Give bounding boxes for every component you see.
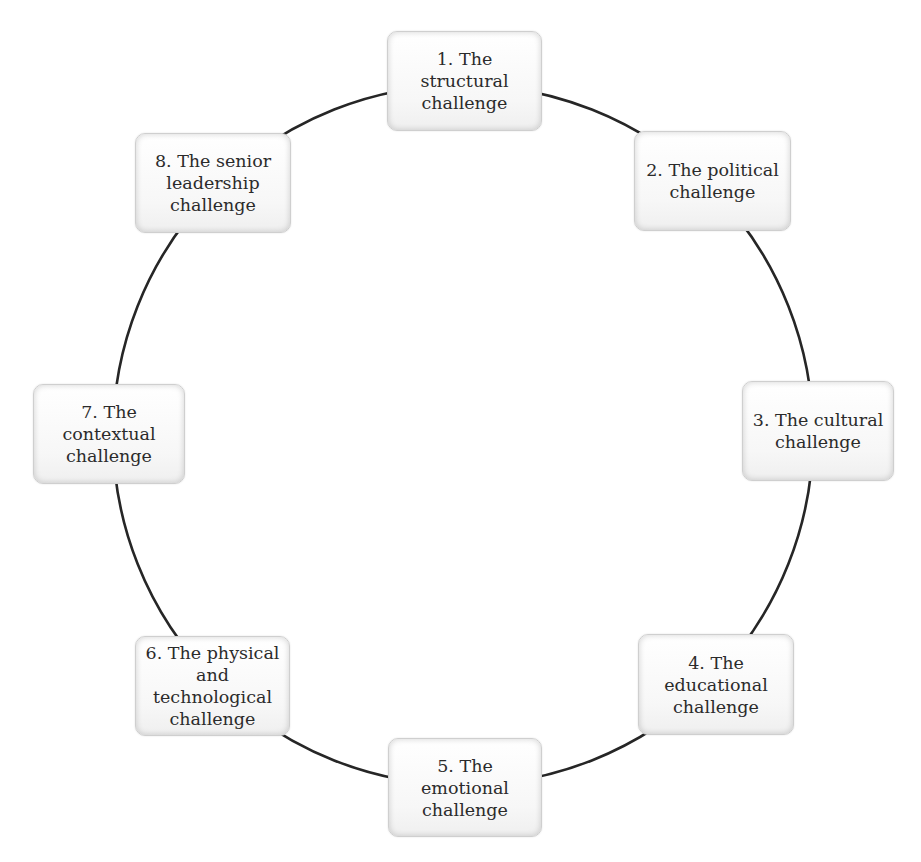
node-label: 4. The educational challenge [664, 652, 768, 718]
node-cultural-challenge: 3. The cultural challenge [742, 381, 894, 481]
node-structural-challenge: 1. The structural challenge [387, 31, 542, 131]
node-label: 5. The emotional challenge [395, 755, 535, 821]
node-label: 8. The senior leadership challenge [155, 150, 271, 216]
node-physical-technological-challenge: 6. The physical and technological challe… [135, 636, 290, 736]
node-political-challenge: 2. The political challenge [634, 131, 791, 231]
node-label: 7. The contextual challenge [40, 401, 178, 467]
node-senior-leadership-challenge: 8. The senior leadership challenge [135, 133, 291, 233]
node-contextual-challenge: 7. The contextual challenge [33, 384, 185, 484]
node-educational-challenge: 4. The educational challenge [638, 634, 794, 735]
challenge-cycle-diagram: 1. The structural challenge 2. The polit… [0, 0, 921, 862]
node-label: 2. The political challenge [646, 159, 779, 203]
node-label: 1. The structural challenge [394, 48, 535, 114]
node-label: 6. The physical and technological challe… [146, 642, 280, 730]
node-label: 3. The cultural challenge [753, 409, 884, 453]
node-emotional-challenge: 5. The emotional challenge [388, 738, 542, 837]
